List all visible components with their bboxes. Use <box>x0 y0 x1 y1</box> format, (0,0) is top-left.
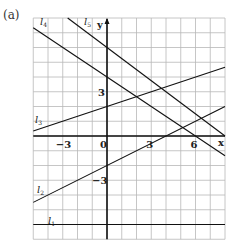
x-tick-label: 6 <box>191 139 198 150</box>
axes <box>33 18 225 239</box>
y-tick-label: 3 <box>98 87 105 98</box>
x-tick-label: −3 <box>56 139 71 150</box>
line-chart: −30363−3xyl1l2l3l4l5 <box>0 0 232 246</box>
x-axis-label: x <box>218 137 225 148</box>
series-label-l2: l2 <box>37 184 44 196</box>
y-axis-label: y <box>96 19 104 30</box>
series-label-l1: l1 <box>48 215 55 227</box>
series-label-l3: l3 <box>35 114 42 126</box>
grid <box>33 18 225 239</box>
y-tick-label: −3 <box>92 175 107 186</box>
x-tick-label: 3 <box>146 139 153 150</box>
x-tick-label: 0 <box>100 139 107 150</box>
y-axis-arrow-icon <box>105 18 110 24</box>
